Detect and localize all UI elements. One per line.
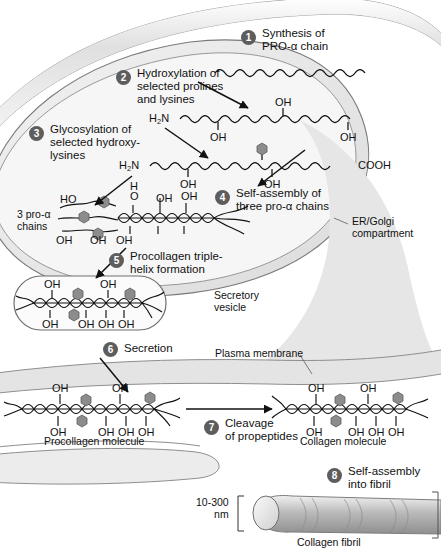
- chem-oh-pro-b4: OH: [138, 426, 155, 438]
- chem-oh-col-b3: OH: [368, 426, 385, 438]
- step-label-3: Glycosylation of selected hydroxy- lysin…: [50, 123, 140, 162]
- step-badge-6[interactable]: 6: [103, 342, 118, 357]
- chem-oh-c3-b: OH: [264, 178, 281, 190]
- chem-o-assembly: O: [130, 190, 139, 202]
- chem-oh-ves-t2: OH: [100, 278, 117, 290]
- step-label-4: Self-assembly of three pro-α chains: [236, 187, 329, 213]
- chem-oh-c2-b: OH: [275, 96, 292, 108]
- step-label-8: Self-assembly into fibril: [348, 465, 420, 491]
- step-label-1: Synthesis of PRO-α chain: [262, 27, 328, 53]
- step-badge-1[interactable]: 1: [241, 30, 256, 45]
- chem-oh-c2-a: OH: [210, 131, 227, 143]
- sugar-hexagon: [257, 143, 267, 155]
- chem-oh-col-b2: OH: [348, 426, 365, 438]
- chem-oh-c2-c: OH: [340, 131, 357, 143]
- chem-oh-pro-b1: OH: [50, 426, 67, 438]
- vesicle-sugars: [69, 288, 135, 321]
- chem-oh-pro-t1: OH: [52, 382, 69, 394]
- chem-oh-col-b4: OH: [388, 426, 405, 438]
- step-label-7: Cleavage of propeptides: [225, 417, 298, 443]
- step-label-6: Secretion: [124, 342, 173, 355]
- step-label-5: Procollagen triple- helix formation: [130, 250, 223, 276]
- triple-helix-vesicle: [16, 290, 164, 318]
- chem-oh-pro-b3: OH: [118, 426, 135, 438]
- chem-oh-c3-a: OH: [180, 178, 197, 190]
- triple-helix-1: [118, 198, 250, 234]
- chem-oh-col-t2: OH: [360, 382, 377, 394]
- arrow-3-to-4: [95, 176, 132, 205]
- step-badge-5[interactable]: 5: [109, 253, 124, 268]
- label-plasma-membrane: Plasma membrane: [215, 348, 303, 360]
- arrow-2-to-3: [165, 128, 208, 158]
- chem-oh-assembly-top: OH: [156, 192, 173, 204]
- chem-ho-assembly: HO: [60, 193, 77, 205]
- step-badge-2[interactable]: 2: [116, 70, 131, 85]
- label-secretory-vesicle: Secretory vesicle: [214, 290, 259, 314]
- chem-oh-ves-b1: OH: [42, 318, 59, 330]
- chem-cooh-chain3: COOH: [358, 159, 391, 171]
- chem-oh-ves-t1: OH: [44, 278, 61, 290]
- chem-oh-pro-b2: OH: [98, 426, 115, 438]
- chem-oh-ves-b4: OH: [118, 318, 135, 330]
- chem-oh-ves-b3: OH: [98, 318, 115, 330]
- label-fibril-diameter: 10-300 nm: [196, 497, 229, 521]
- chem-oh-assembly-b3: OH: [116, 234, 133, 246]
- chem-oh-col-b1: OH: [306, 426, 323, 438]
- chem-h2n-chain2: H2N: [149, 112, 169, 126]
- step-badge-4[interactable]: 4: [215, 190, 230, 205]
- label-er-golgi: ER/Golgi compartment: [352, 216, 413, 240]
- chem-oh-pro-t2: OH: [112, 382, 129, 394]
- label-collagen-fibril: Collagen fibril: [297, 537, 361, 549]
- pro-alpha-chain-3: [150, 152, 330, 177]
- figure-canvas: 1 2 3 4 5 6 7 8 Synthesis of PRO-α chain…: [0, 0, 441, 556]
- chem-oh-ves-b2: OH: [78, 318, 95, 330]
- chem-oh-assembly-b2: OH: [90, 234, 107, 246]
- label-three-pro-alpha-chains: 3 pro-α chains: [17, 209, 51, 233]
- chem-oh-col-t1: OH: [308, 382, 325, 394]
- step-label-2: Hydroxylation of selected prolines and l…: [137, 67, 223, 106]
- step-badge-8[interactable]: 8: [327, 468, 342, 483]
- step-badge-7[interactable]: 7: [204, 420, 219, 435]
- chem-oh-assembly-b1: OH: [56, 234, 73, 246]
- leader-er-golgi: [334, 218, 348, 224]
- pro-alpha-chain-1: [215, 70, 365, 77]
- step-badge-3[interactable]: 3: [29, 126, 44, 141]
- chem-h2n-chain3: H2N: [119, 159, 139, 173]
- pro-alpha-chain-2: [180, 108, 350, 130]
- chem-oh-assembly-upper: OH: [181, 190, 198, 202]
